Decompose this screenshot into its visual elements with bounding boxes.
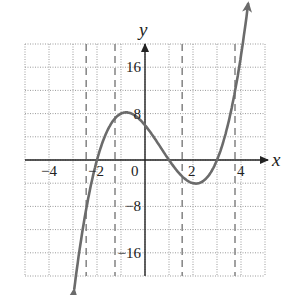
x-tick-label: 4 xyxy=(237,163,245,179)
y-tick-label: −16 xyxy=(118,245,142,261)
cubic-function-graph: −4−2024168−8−16 x y xyxy=(0,0,297,295)
x-axis-label: x xyxy=(271,149,281,170)
x-tick-label: −4 xyxy=(41,163,57,179)
y-tick-label: 8 xyxy=(134,106,142,122)
axes xyxy=(25,44,268,276)
cubic-curve xyxy=(74,3,248,289)
y-tick-label: −8 xyxy=(125,198,141,214)
x-tick-label: −2 xyxy=(88,163,104,179)
x-tick-label: 2 xyxy=(188,163,196,179)
y-axis-label: y xyxy=(137,19,148,40)
x-tick-label: 0 xyxy=(131,163,139,179)
y-tick-label: 16 xyxy=(126,59,142,75)
function-curve xyxy=(74,3,248,289)
